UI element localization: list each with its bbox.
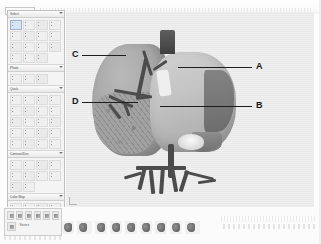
chevron-down-icon[interactable] (59, 66, 63, 68)
bottom-toolbar[interactable]: Series (4, 208, 62, 236)
tool-icon-quick-1[interactable] (10, 95, 22, 105)
palette-icon-grid[interactable] (8, 158, 64, 193)
open-icon[interactable] (7, 211, 14, 220)
tool-icon-quick-20[interactable] (49, 139, 61, 149)
palette-section-title: Contrast/Dev (10, 152, 29, 156)
tool-icon-contrast-4[interactable] (49, 160, 61, 170)
bottom-footer-strip (4, 236, 64, 240)
bottom-panel: Series (0, 207, 321, 244)
tool-icon-contrast-1[interactable] (10, 160, 22, 170)
liver-volume-model[interactable] (92, 30, 244, 180)
leader-line-b (160, 106, 252, 107)
palette-section-header[interactable]: Color Map (8, 194, 64, 201)
volume-rendering-viewport[interactable]: A B C D (66, 12, 314, 208)
thumbnail-item[interactable] (110, 221, 122, 234)
palette-icon-grid[interactable] (8, 18, 64, 64)
tool-icon-quick-13[interactable] (10, 128, 22, 138)
tool-icon-contrast-10[interactable] (23, 182, 35, 192)
vessel-limb-3 (159, 168, 165, 194)
tool-icon-movie[interactable] (23, 74, 35, 84)
palette-section-title: Photo (10, 66, 18, 70)
tool-icon-contrast-5[interactable] (10, 171, 22, 181)
thumbnail-item[interactable] (125, 221, 137, 234)
tool-icon-quick-18[interactable] (23, 139, 35, 149)
tool-icon-quick-9[interactable] (10, 117, 22, 127)
tool-icon-point[interactable] (10, 53, 22, 63)
tool-icon-quick-14[interactable] (23, 128, 35, 138)
bottom-toolbar-row-1[interactable] (5, 209, 61, 220)
tool-icon-export[interactable] (36, 74, 48, 84)
save-icon[interactable] (16, 211, 23, 220)
tool-icon-quick-16[interactable] (49, 128, 61, 138)
tool-icon-freehand[interactable] (10, 31, 22, 41)
tool-icon-contrast-2[interactable] (23, 160, 35, 170)
tool-icon-ellipse[interactable] (36, 31, 48, 41)
thumbnail-item[interactable] (170, 221, 182, 234)
tool-icon-quick-19[interactable] (36, 139, 48, 149)
reset-icon[interactable] (52, 211, 59, 220)
print-icon[interactable] (25, 211, 32, 220)
pan-icon[interactable] (43, 211, 50, 220)
thumbnail-item[interactable] (185, 221, 200, 234)
tool-icon-pencil[interactable] (23, 53, 35, 63)
tool-icon-circle[interactable] (23, 31, 35, 41)
tool-icon-ruler[interactable] (49, 31, 61, 41)
tool-icon-curve[interactable] (36, 20, 48, 30)
tool-icon-quick-2[interactable] (23, 95, 35, 105)
palette-section-quick: Quick (8, 86, 64, 151)
tool-icon-quick-12[interactable] (49, 117, 61, 127)
mode-label: Series (18, 222, 30, 231)
thumbnail-item[interactable] (95, 221, 107, 234)
tool-icon-quick-3[interactable] (36, 95, 48, 105)
chevron-down-icon[interactable] (59, 152, 63, 154)
tool-icon-quick-10[interactable] (23, 117, 35, 127)
chevron-down-icon[interactable] (59, 12, 63, 14)
palette-icon-grid[interactable] (8, 93, 64, 150)
tool-icon-quick-4[interactable] (49, 95, 61, 105)
layout-icon[interactable] (7, 222, 16, 231)
tool-icon-polygon[interactable] (49, 42, 61, 52)
tool-icon-arrow[interactable] (10, 20, 22, 30)
tool-palette-sidebar[interactable]: Select Ph (7, 10, 65, 212)
palette-icon-grid[interactable] (8, 72, 64, 85)
tool-icon-snapshot[interactable] (10, 74, 22, 84)
palette-section-header[interactable]: Quick (8, 86, 64, 93)
zoom-icon[interactable] (34, 211, 41, 220)
tool-icon-quick-17[interactable] (10, 139, 22, 149)
thumbnail-item[interactable] (140, 221, 152, 234)
tool-icon-contrast-6[interactable] (23, 171, 35, 181)
tool-icon-contrast-3[interactable] (36, 160, 48, 170)
tool-icon-spline[interactable] (49, 20, 61, 30)
viewport-corner-marker (69, 197, 77, 205)
tool-icon-quick-7[interactable] (36, 106, 48, 116)
thumbnail-item[interactable] (155, 221, 167, 234)
leader-line-d (82, 102, 138, 103)
leader-line-a (178, 67, 252, 68)
palette-section-title: Quick (10, 87, 18, 91)
tool-icon-quick-15[interactable] (36, 128, 48, 138)
tool-icon-eraser[interactable] (36, 53, 48, 63)
palette-section-header[interactable]: Select (8, 11, 64, 18)
tool-icon-contrast-8[interactable] (49, 171, 61, 181)
vessel-lateral-right-2 (198, 179, 216, 184)
tool-icon-lasso[interactable] (23, 20, 35, 30)
tool-icon-arrow-annot[interactable] (23, 42, 35, 52)
tool-icon-quick-6[interactable] (23, 106, 35, 116)
thumbnail-item[interactable] (62, 221, 74, 234)
tool-icon-quick-11[interactable] (36, 117, 48, 127)
chevron-down-icon[interactable] (59, 87, 63, 89)
palette-section-header[interactable]: Photo (8, 65, 64, 72)
thumbnail-item[interactable] (77, 221, 92, 234)
palette-section-header[interactable]: Contrast/Dev (8, 151, 64, 158)
bottom-toolbar-row-2[interactable]: Series (5, 220, 61, 231)
status-text (223, 224, 315, 229)
tool-icon-quick-8[interactable] (49, 106, 61, 116)
tool-icon-quick-5[interactable] (10, 106, 22, 116)
inferior-vena-cava (160, 30, 175, 54)
chevron-down-icon[interactable] (59, 195, 63, 197)
tool-icon-contrast-9[interactable] (10, 182, 22, 192)
tool-icon-angle[interactable] (10, 42, 22, 52)
tool-icon-contrast-7[interactable] (36, 171, 48, 181)
tool-icon-square[interactable] (36, 42, 48, 52)
thumbnail-filmstrip[interactable] (62, 219, 212, 235)
